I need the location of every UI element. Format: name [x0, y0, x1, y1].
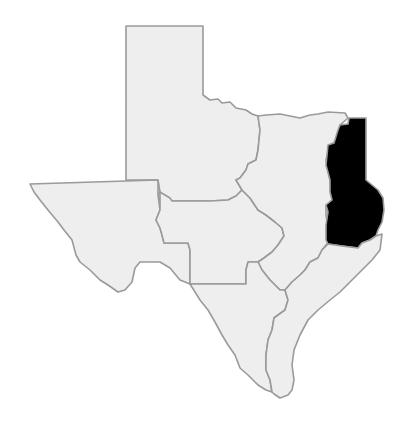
- region-panhandle[interactable]: [126, 26, 260, 201]
- texas-map: [0, 0, 411, 422]
